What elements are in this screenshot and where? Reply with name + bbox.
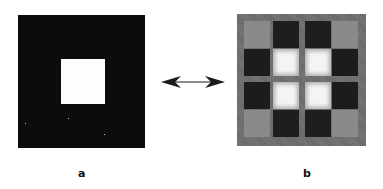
grid-cell	[244, 49, 270, 76]
noise-speck	[68, 118, 69, 119]
grid-cell	[332, 21, 358, 48]
grid-cell	[305, 110, 331, 137]
noise-speck	[104, 134, 105, 135]
noise-speck	[25, 123, 26, 124]
grid-cell	[305, 21, 331, 48]
grid-cell	[244, 21, 270, 48]
grid-cell	[244, 82, 270, 109]
grid-cell	[273, 21, 299, 48]
panel-b-transform	[237, 14, 366, 146]
grid-cell	[332, 49, 358, 76]
grid-cell	[332, 82, 358, 109]
white-square	[61, 59, 105, 104]
panel-a-image	[18, 15, 145, 148]
grid-cell	[305, 49, 331, 76]
grid-cell	[244, 110, 270, 137]
grid-cell	[332, 110, 358, 137]
grid-cell	[273, 49, 299, 76]
grid-cell	[273, 110, 299, 137]
grid-cell	[273, 82, 299, 109]
panel-b-label: b	[303, 167, 311, 180]
double-arrow-icon	[161, 74, 225, 90]
grid-cell	[305, 82, 331, 109]
panel-a-label: a	[78, 167, 85, 180]
